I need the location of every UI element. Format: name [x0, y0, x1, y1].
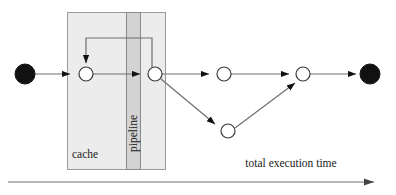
node-stage-2	[148, 67, 162, 81]
axis-label: total execution time	[245, 157, 336, 169]
cache-label: cache	[72, 148, 98, 160]
edge-s4-to-s5	[235, 83, 295, 128]
node-stage-3	[217, 67, 231, 81]
execution-timeline-diagram: cache pipeline	[0, 0, 396, 195]
pipeline-label: pipeline	[127, 115, 140, 152]
cache-region	[68, 13, 166, 170]
node-stage-4	[221, 124, 235, 138]
node-stage-5	[296, 67, 310, 81]
node-start	[15, 64, 35, 84]
node-end	[360, 64, 380, 84]
diagram-canvas: cache pipeline	[0, 0, 396, 195]
edge-s2-to-s4	[161, 79, 215, 124]
node-stage-1	[79, 67, 93, 81]
